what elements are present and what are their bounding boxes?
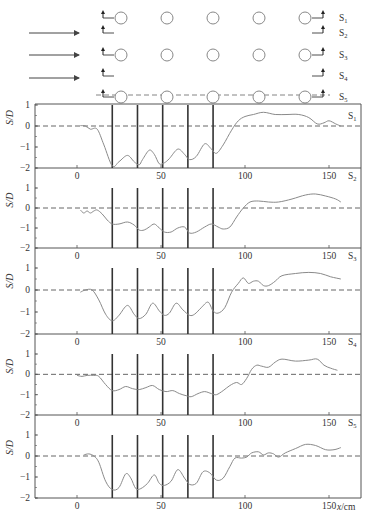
x-tick-label: 0 bbox=[75, 418, 80, 428]
pile-circle bbox=[299, 12, 311, 24]
panel-s2: 10−1−2S/D050100150S2 bbox=[4, 168, 361, 261]
panel-label: S1 bbox=[348, 111, 357, 122]
x-tick-label: 0 bbox=[75, 501, 80, 511]
scour-profile-curve bbox=[84, 444, 341, 490]
y-tick-label: −1 bbox=[20, 472, 30, 482]
section-label: S2 bbox=[339, 28, 348, 39]
y-tick-label: −2 bbox=[20, 329, 30, 339]
pile-circle bbox=[207, 49, 219, 61]
x-tick-label: 100 bbox=[238, 418, 253, 428]
y-tick-label: −2 bbox=[20, 243, 30, 253]
y-tick-label: 1 bbox=[25, 100, 30, 110]
scour-profile-curve bbox=[80, 194, 340, 233]
section-label: S1 bbox=[339, 13, 348, 24]
section-label: S3 bbox=[339, 50, 348, 61]
x-tick-label: 150 bbox=[322, 501, 337, 511]
y-tick-label: 1 bbox=[25, 430, 30, 440]
x-tick-label: 50 bbox=[156, 251, 166, 261]
x-tick-label: 50 bbox=[156, 337, 166, 347]
panel-label: S3 bbox=[348, 251, 357, 262]
panel-label: S4 bbox=[348, 337, 357, 348]
x-tick-label: 100 bbox=[238, 171, 253, 181]
y-tick-label: −2 bbox=[20, 163, 30, 173]
x-tick-label: 50 bbox=[156, 418, 166, 428]
panel-label: S2 bbox=[348, 171, 357, 182]
panel-s3: 10−1−2S/D050100150S3 bbox=[4, 248, 361, 347]
x-tick-label: 100 bbox=[238, 337, 253, 347]
scour-profile-curve bbox=[80, 272, 340, 320]
pile-layout-schematic: S1S2S3S4S5 bbox=[29, 12, 348, 103]
y-tick-label: 1 bbox=[25, 349, 30, 359]
y-tick-label: −1 bbox=[20, 390, 30, 400]
y-tick-label: 0 bbox=[25, 369, 30, 379]
pile-circle bbox=[115, 49, 127, 61]
y-tick-label: 1 bbox=[25, 263, 30, 273]
x-tick-label: 150 bbox=[322, 251, 337, 261]
x-tick-label: 100 bbox=[238, 501, 253, 511]
y-axis-label: S/D bbox=[4, 273, 15, 289]
x-tick-label: 150 bbox=[322, 171, 337, 181]
x-tick-label: 50 bbox=[156, 501, 166, 511]
pile-circle bbox=[253, 12, 265, 24]
pile-circle bbox=[207, 91, 219, 103]
pile-circle bbox=[253, 49, 265, 61]
y-axis-label: S/D bbox=[4, 358, 15, 374]
x-tick-label: 0 bbox=[75, 171, 80, 181]
panel-s5: 10−1−2S/D050100150S5 bbox=[4, 415, 361, 511]
y-tick-label: 0 bbox=[25, 203, 30, 213]
section-label: S5 bbox=[339, 92, 348, 103]
x-tick-label: 100 bbox=[238, 251, 253, 261]
panel-s1: 10−1−2S/D050100150S1 bbox=[4, 100, 361, 181]
y-axis-label: S/D bbox=[4, 109, 15, 125]
pile-circle bbox=[207, 12, 219, 24]
pile-circle bbox=[161, 12, 173, 24]
y-tick-label: −2 bbox=[20, 410, 30, 420]
pile-circle bbox=[115, 91, 127, 103]
y-tick-label: −1 bbox=[20, 223, 30, 233]
y-tick-label: −1 bbox=[20, 142, 30, 152]
x-tick-label: 0 bbox=[75, 337, 80, 347]
plot-panels: 10−1−2S/D050100150S110−1−2S/D050100150S2… bbox=[4, 100, 361, 512]
y-axis-label: S/D bbox=[4, 192, 15, 208]
y-tick-label: 1 bbox=[25, 183, 30, 193]
y-axis-label: S/D bbox=[4, 439, 15, 455]
pile-circle bbox=[161, 49, 173, 61]
pile-circle bbox=[161, 91, 173, 103]
pile-circle bbox=[253, 91, 265, 103]
y-tick-label: −1 bbox=[20, 307, 30, 317]
x-axis-label: x/cm bbox=[336, 502, 356, 512]
panel-s4: 10−1−2S/D050100150S4 bbox=[4, 334, 361, 428]
y-tick-label: 0 bbox=[25, 121, 30, 131]
figure: S1S2S3S4S5 10−1−2S/D050100150S110−1−2S/D… bbox=[0, 0, 373, 526]
x-tick-label: 0 bbox=[75, 251, 80, 261]
y-tick-label: 0 bbox=[25, 451, 30, 461]
x-tick-label: 150 bbox=[322, 337, 337, 347]
panel-label: S5 bbox=[348, 418, 357, 429]
pile-circle bbox=[115, 12, 127, 24]
scour-profile-curve bbox=[77, 359, 337, 397]
x-tick-label: 50 bbox=[156, 171, 166, 181]
pile-circle bbox=[299, 49, 311, 61]
section-label: S4 bbox=[339, 71, 348, 82]
y-tick-label: −2 bbox=[20, 493, 30, 503]
x-tick-label: 150 bbox=[322, 418, 337, 428]
scour-profile-curve bbox=[80, 112, 340, 166]
y-tick-label: 0 bbox=[25, 285, 30, 295]
pile-circle bbox=[299, 91, 311, 103]
